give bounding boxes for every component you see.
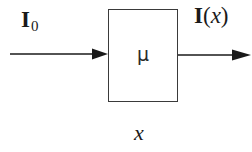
medium-block: μ (108, 9, 178, 102)
output-arrow (177, 50, 251, 61)
input-arrow (10, 49, 108, 60)
output-close-paren: ) (221, 3, 229, 28)
output-intensity-symbol: I (194, 3, 203, 28)
thickness-axis-label: x (134, 121, 144, 145)
output-open-paren: ( (203, 3, 211, 28)
output-variable: x (211, 3, 221, 28)
attenuation-coefficient-symbol: μ (109, 43, 177, 65)
attenuation-block-diagram: μ I0 I(x) x (0, 0, 252, 152)
input-intensity-subscript: 0 (31, 18, 39, 34)
input-intensity-label: I0 (21, 8, 38, 34)
input-intensity-symbol: I (21, 7, 30, 32)
output-intensity-label: I(x) (194, 4, 229, 28)
